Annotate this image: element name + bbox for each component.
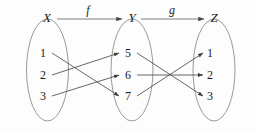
- element-y-5: 5: [125, 46, 131, 60]
- set-x-elements: 1 2 3: [40, 46, 46, 103]
- function-composition-diagram: X Y Z f g 1 2 3 5 6: [0, 0, 255, 131]
- set-label-x: X: [42, 10, 52, 25]
- diagram-canvas: X Y Z f g 1 2 3 5 6: [0, 0, 255, 131]
- element-x-3: 3: [40, 89, 46, 103]
- element-z-2: 2: [207, 68, 213, 82]
- set-ellipse-y: [111, 19, 153, 121]
- element-arrow-f-3-to-6: [52, 75, 119, 96]
- element-z-3: 3: [207, 89, 213, 103]
- element-arrow-f-2-to-5: [52, 53, 119, 75]
- set-z-elements: 1 2 3: [207, 46, 213, 103]
- element-x-2: 2: [40, 68, 46, 82]
- set-ellipse-z: [193, 19, 235, 121]
- element-arrows-f: [52, 53, 119, 96]
- element-z-1: 1: [207, 46, 213, 60]
- set-ellipse-x: [27, 19, 69, 121]
- element-y-6: 6: [125, 68, 131, 82]
- map-label-g: g: [169, 3, 175, 17]
- set-y-elements: 5 6 7: [125, 46, 131, 103]
- set-label-z: Z: [210, 10, 218, 25]
- set-labels: X Y Z: [42, 10, 218, 25]
- set-label-y: Y: [128, 10, 137, 25]
- element-arrow-f-1-to-7: [52, 53, 119, 96]
- element-x-1: 1: [40, 46, 46, 60]
- element-y-7: 7: [125, 89, 131, 103]
- map-label-f: f: [86, 3, 91, 17]
